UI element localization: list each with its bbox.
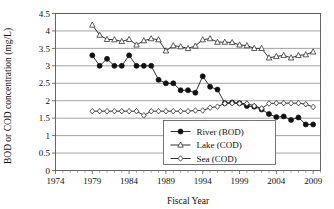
marker-filled-circle (178, 88, 183, 93)
marker-filled-circle (163, 81, 168, 86)
marker-filled-circle (134, 63, 139, 68)
x-tick-label: 2009 (304, 176, 323, 186)
marker-filled-circle (281, 114, 286, 119)
y-tick-label: 4 (46, 26, 51, 36)
marker-filled-circle (178, 129, 183, 134)
x-axis-title: Fiscal Year (167, 196, 210, 206)
y-tick-label: 2.5 (39, 78, 51, 88)
marker-filled-circle (274, 115, 279, 120)
marker-filled-circle (266, 111, 271, 116)
marker-filled-circle (208, 84, 213, 89)
marker-filled-circle (215, 87, 220, 92)
marker-filled-circle (311, 122, 316, 127)
x-tick-label: 1974 (47, 176, 66, 186)
x-tick-label: 2004 (267, 176, 286, 186)
y-tick-label: 1 (46, 131, 51, 141)
x-tick-label: 1984 (120, 176, 139, 186)
marker-filled-circle (200, 74, 205, 79)
marker-filled-circle (186, 88, 191, 93)
legend-label: Lake (COD) (197, 140, 242, 150)
marker-filled-circle (141, 63, 146, 68)
marker-filled-circle (90, 53, 95, 58)
y-tick-label: 3 (46, 61, 51, 71)
legend-label: Sea (COD) (197, 154, 237, 164)
chart-legend: River (BOD)Lake (COD)Sea (COD) (164, 121, 276, 165)
marker-filled-circle (193, 90, 198, 95)
y-tick-label: 0 (46, 166, 51, 176)
y-tick-label: 4.5 (39, 9, 51, 19)
marker-filled-circle (105, 56, 110, 61)
marker-filled-circle (127, 53, 132, 58)
concentration-line-chart: 00.511.522.533.544.5 1974197919841989199… (0, 0, 334, 209)
legend-label: River (BOD) (197, 127, 244, 137)
x-tick-label: 1999 (231, 176, 250, 186)
marker-filled-circle (289, 117, 294, 122)
chart-figure: 00.511.522.533.544.5 1974197919841989199… (0, 0, 334, 209)
marker-filled-circle (97, 63, 102, 68)
x-tick-label: 1979 (83, 176, 102, 186)
marker-filled-circle (303, 122, 308, 127)
marker-filled-circle (119, 63, 124, 68)
x-tick-label: 1989 (157, 176, 176, 186)
y-tick-label: 3.5 (39, 44, 51, 54)
y-tick-label: 2 (46, 96, 51, 106)
marker-filled-circle (149, 63, 154, 68)
marker-filled-circle (112, 63, 117, 68)
marker-filled-circle (156, 77, 161, 82)
y-axis-title: BOD or COD concentration (mg/L) (3, 28, 14, 164)
marker-filled-circle (171, 81, 176, 86)
y-tick-label: 1.5 (39, 113, 51, 123)
marker-filled-circle (296, 115, 301, 120)
y-tick-label: 0.5 (39, 148, 51, 158)
x-tick-label: 1994 (194, 176, 213, 186)
